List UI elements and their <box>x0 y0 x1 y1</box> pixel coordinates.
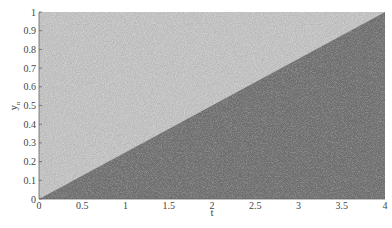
x-axis-label: t <box>210 206 213 218</box>
y-tick-label: 0.6 <box>24 81 37 92</box>
y-tick-label: 0.5 <box>24 100 37 111</box>
x-tick-label: 4 <box>383 200 388 211</box>
svg-text:yn: yn <box>7 101 22 111</box>
y-tick-label: 0 <box>31 194 36 205</box>
y-tick-label: 0.7 <box>24 63 37 74</box>
y-tick-labels: 00.10.20.30.40.50.60.70.80.91 <box>24 7 37 205</box>
plot-area <box>39 12 385 199</box>
y-tick-label: 0.2 <box>24 156 37 167</box>
y-tick-label: 0.8 <box>24 44 37 55</box>
x-tick-label: 3 <box>296 200 301 211</box>
x-tick-label: 3.5 <box>336 200 349 211</box>
x-tick-label: 1 <box>123 200 128 211</box>
y-axis-label: yn <box>7 101 22 111</box>
y-tick-label: 0.3 <box>24 137 37 148</box>
x-tick-label: 1.5 <box>163 200 176 211</box>
x-tick-label: 2.5 <box>249 200 262 211</box>
y-tick-label: 0.4 <box>24 119 37 130</box>
x-tick-label: 0.5 <box>76 200 89 211</box>
y-tick-label: 1 <box>31 7 36 18</box>
chart: 00.10.20.30.40.50.60.70.80.91 00.511.522… <box>0 0 392 228</box>
x-tick-label: 0 <box>37 200 42 211</box>
y-tick-label: 0.9 <box>24 25 37 36</box>
y-tick-label: 0.1 <box>24 175 37 186</box>
